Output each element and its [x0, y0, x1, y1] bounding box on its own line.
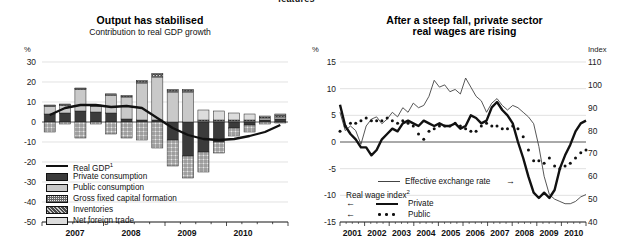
legend-swatch-grid — [46, 195, 68, 203]
left-chart-panel: Output has stabilised Contribution to re… — [0, 0, 300, 252]
legend-arrow-right: → — [506, 176, 515, 187]
legend-label-private: Private — [408, 198, 433, 209]
legend-label-inventories: Inventories — [73, 204, 113, 215]
legend-swatch-light — [46, 184, 68, 192]
legend-swatch-speckle — [46, 206, 68, 214]
legend-group-real-wage-index: Real wage index2 — [346, 187, 378, 198]
legend-swatch-thin-line — [378, 181, 400, 182]
legend-swatch-thick-line — [376, 203, 398, 205]
legend-swatch-pale — [46, 217, 68, 225]
legend-item-private: ← Private — [346, 198, 378, 209]
legend-label-net-foreign-trade: Net foreign trade — [73, 215, 134, 226]
legend-item-public: ← Public — [346, 209, 378, 220]
legend-swatch-dark — [46, 173, 68, 181]
right-chart-legend: Effective exchange rate → Real wage inde… — [346, 176, 378, 220]
figure-root: features Output has stabilised Contribut… — [0, 0, 629, 252]
legend-label-private-consumption: Private consumption — [73, 171, 147, 182]
legend-arrow-left-private: ← — [346, 198, 355, 209]
legend-label-public: Public — [408, 209, 430, 220]
legend-label-public-consumption: Public consumption — [73, 182, 144, 193]
legend-swatch-line — [46, 165, 68, 167]
left-chart-plot — [0, 0, 300, 252]
legend-label-gfcf: Gross fixed capital formation — [73, 193, 177, 204]
legend-arrow-left-public: ← — [346, 209, 355, 220]
legend-swatch-dotted — [378, 213, 400, 216]
legend-item-eer: Effective exchange rate → — [346, 176, 378, 187]
legend-label-eer: Effective exchange rate — [405, 176, 490, 187]
right-chart-panel: After a steep fall, private sector real … — [300, 0, 629, 252]
